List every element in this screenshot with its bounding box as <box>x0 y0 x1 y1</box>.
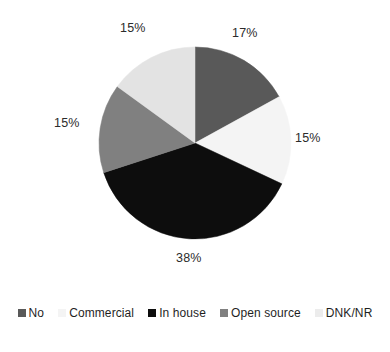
data-label-in-house: 38% <box>176 251 202 265</box>
data-label-commercial: 15% <box>295 131 321 145</box>
pie-plot-area: 17% 15% 38% 15% 15% <box>0 0 390 296</box>
legend-label: In house <box>159 307 206 319</box>
legend-item-dnk-nr[interactable]: DNK/NR <box>315 307 373 319</box>
legend-item-commercial[interactable]: Commercial <box>58 307 134 319</box>
legend-label: Open source <box>231 307 301 319</box>
legend-label: No <box>29 307 45 319</box>
data-label-open-source: 15% <box>54 116 80 130</box>
legend-swatch-icon <box>220 309 228 317</box>
legend-item-open-source[interactable]: Open source <box>220 307 301 319</box>
legend-item-no[interactable]: No <box>18 307 45 319</box>
legend-swatch-icon <box>18 309 26 317</box>
legend-label: Commercial <box>69 307 134 319</box>
legend-swatch-icon <box>148 309 156 317</box>
data-label-no: 17% <box>232 26 258 40</box>
legend-swatch-icon <box>58 309 66 317</box>
data-label-dnk-nr: 15% <box>120 21 146 35</box>
pie-slice-group <box>99 47 291 239</box>
pie-chart-figure: 17% 15% 38% 15% 15% No Commercial In hou… <box>0 0 390 352</box>
legend-label: DNK/NR <box>326 307 373 319</box>
legend-item-in-house[interactable]: In house <box>148 307 206 319</box>
legend-swatch-icon <box>315 309 323 317</box>
chart-legend: No Commercial In house Open source DNK/N… <box>0 302 390 324</box>
